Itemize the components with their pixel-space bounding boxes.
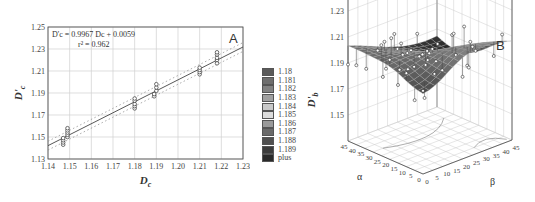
legend-swatch bbox=[262, 146, 274, 154]
data-point bbox=[463, 25, 466, 28]
svg-text:1.19: 1.19 bbox=[31, 89, 45, 98]
legend-swatch bbox=[262, 111, 274, 119]
svg-text:45: 45 bbox=[513, 144, 521, 152]
data-point bbox=[416, 32, 419, 35]
svg-text:1.23: 1.23 bbox=[330, 7, 344, 16]
legend-swatch bbox=[262, 128, 274, 136]
data-point bbox=[410, 49, 413, 52]
legend-label: 1.183 bbox=[278, 94, 296, 102]
legend-entry: plus bbox=[262, 154, 302, 163]
data-point bbox=[492, 55, 495, 58]
data-point bbox=[347, 63, 350, 66]
svg-text:1.17: 1.17 bbox=[330, 85, 344, 94]
data-point bbox=[471, 45, 474, 48]
data-point bbox=[398, 68, 401, 71]
regression-annotation: D'c = 0.9967 Dc + 0.0059r² = 0.962 bbox=[52, 30, 135, 49]
legend-label: plus bbox=[278, 154, 291, 162]
panel-label-a: A bbox=[229, 31, 238, 46]
svg-text:40: 40 bbox=[503, 148, 511, 156]
data-point bbox=[66, 126, 70, 130]
floor-contour bbox=[474, 138, 507, 147]
svg-text:1.15: 1.15 bbox=[330, 111, 344, 120]
panel-label-b: B bbox=[496, 38, 505, 53]
svg-text:1.23: 1.23 bbox=[31, 45, 45, 54]
data-point bbox=[376, 49, 379, 52]
svg-text:25: 25 bbox=[374, 158, 382, 166]
svg-text:20: 20 bbox=[463, 163, 471, 171]
data-point bbox=[426, 49, 429, 52]
data-point bbox=[501, 33, 504, 36]
data-point bbox=[155, 82, 159, 86]
svg-text:1.19: 1.19 bbox=[149, 162, 163, 171]
svg-text:1.17: 1.17 bbox=[106, 162, 120, 171]
svg-text:1.17: 1.17 bbox=[31, 111, 45, 120]
legend-swatch bbox=[262, 77, 274, 85]
data-point bbox=[381, 75, 384, 78]
data-point bbox=[385, 67, 388, 70]
chart-b: 1.151.171.191.211.231.25D'b4540353025201… bbox=[300, 0, 535, 202]
svg-text:15: 15 bbox=[391, 165, 399, 173]
svg-text:40: 40 bbox=[349, 147, 357, 155]
svg-text:1.21: 1.21 bbox=[31, 67, 45, 76]
data-point bbox=[383, 40, 386, 43]
svg-text:1.22: 1.22 bbox=[214, 162, 228, 171]
data-point bbox=[424, 63, 427, 66]
legend-swatch bbox=[262, 120, 274, 128]
data-point bbox=[452, 32, 455, 35]
data-point bbox=[418, 55, 421, 58]
surface-legend: 1.181.1811.1821.1831.1841.1851.1861.1871… bbox=[262, 68, 302, 163]
x-axis-label: Dc bbox=[139, 174, 152, 189]
svg-text:1.25: 1.25 bbox=[31, 23, 45, 32]
svg-text:10: 10 bbox=[443, 170, 451, 178]
data-point bbox=[388, 58, 391, 61]
data-point bbox=[393, 32, 396, 35]
data-point bbox=[198, 66, 202, 70]
data-point bbox=[380, 44, 383, 47]
svg-text:1.13: 1.13 bbox=[31, 155, 45, 164]
surface-mesh bbox=[348, 36, 512, 94]
y-tick-labels: 1.131.151.171.191.211.231.25 bbox=[31, 23, 45, 164]
legend-label: 1.188 bbox=[278, 137, 296, 145]
svg-text:1.15: 1.15 bbox=[31, 133, 45, 142]
svg-text:1.21: 1.21 bbox=[330, 33, 344, 42]
svg-text:10: 10 bbox=[399, 169, 407, 177]
svg-text:15: 15 bbox=[453, 167, 461, 175]
svg-text:30: 30 bbox=[483, 155, 491, 163]
svg-text:20: 20 bbox=[382, 161, 390, 169]
data-point bbox=[365, 67, 368, 70]
data-point bbox=[400, 42, 403, 45]
legend-swatch bbox=[262, 85, 274, 93]
data-point bbox=[406, 68, 409, 71]
svg-text:1.21: 1.21 bbox=[193, 162, 207, 171]
data-point bbox=[421, 53, 424, 56]
data-point bbox=[436, 42, 439, 45]
legend-swatch bbox=[262, 137, 274, 145]
svg-text:25: 25 bbox=[473, 159, 481, 167]
z-axis-label: D'b bbox=[305, 93, 320, 109]
beta-axis-label: β bbox=[490, 176, 495, 187]
data-point bbox=[405, 72, 408, 75]
data-point bbox=[469, 40, 472, 43]
svg-text:5: 5 bbox=[435, 174, 439, 182]
y-axis-label: D'c bbox=[12, 85, 27, 101]
svg-text:1.19: 1.19 bbox=[330, 59, 344, 68]
data-point bbox=[390, 37, 393, 40]
data-point bbox=[467, 66, 470, 69]
legend-swatch bbox=[262, 103, 274, 111]
data-point bbox=[152, 92, 156, 96]
data-point bbox=[474, 49, 477, 52]
data-point bbox=[61, 136, 65, 140]
data-point bbox=[431, 47, 434, 50]
equation-text: D'c = 0.9967 Dc + 0.0059 bbox=[52, 30, 135, 39]
alpha-axis-label: α bbox=[357, 171, 363, 182]
x-tick-labels: 1.141.151.161.171.181.191.201.211.221.23 bbox=[41, 162, 250, 171]
svg-text:1.23: 1.23 bbox=[236, 162, 250, 171]
svg-text:1.15: 1.15 bbox=[63, 162, 77, 171]
svg-text:45: 45 bbox=[341, 143, 349, 151]
svg-text:1.16: 1.16 bbox=[84, 162, 98, 171]
legend-swatch bbox=[262, 154, 274, 162]
regression-line bbox=[48, 47, 243, 146]
legend-swatch bbox=[262, 94, 274, 102]
data-point bbox=[413, 99, 416, 102]
r-squared-text: r² = 0.962 bbox=[78, 40, 110, 49]
